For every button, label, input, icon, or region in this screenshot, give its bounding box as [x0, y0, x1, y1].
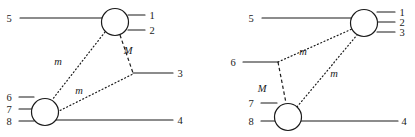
diagram-canvas: 51236784mMm51236784mMm: [0, 0, 415, 137]
right-diagram-leg-8-label: 8: [248, 116, 253, 127]
left-diagram-propagator-m-lower: [57, 74, 133, 112]
right-diagram-leg-6-label: 6: [230, 57, 235, 68]
right-diagram-leg-3-label: 3: [399, 27, 404, 38]
left-diagram-leg-4-label: 4: [177, 115, 183, 126]
left-feynman-diagram: 51236784mMm: [6, 9, 183, 128]
right-diagram-mass-label-M: M: [257, 83, 268, 94]
left-diagram-mass-label-M: M: [123, 45, 134, 56]
left-diagram-leg-1-label: 1: [149, 10, 154, 21]
left-diagram-upper-vertex-blob: [102, 9, 129, 36]
left-diagram-leg-8-label: 8: [6, 116, 11, 127]
right-diagram-leg-4-label: 4: [401, 116, 407, 127]
left-diagram-leg-7-label: 7: [6, 104, 11, 115]
diagram-group: 51236784mMm51236784mMm: [6, 7, 407, 131]
right-diagram-leg-5-label: 5: [248, 13, 253, 24]
left-diagram-lower-vertex-blob: [32, 99, 59, 126]
right-diagram-lower-vertex-blob: [275, 104, 302, 131]
right-feynman-diagram: 51236784mMm: [230, 7, 407, 131]
left-diagram-mass-label-m-lower: m: [75, 85, 83, 96]
left-diagram-leg-6-label: 6: [6, 92, 11, 103]
right-diagram-mass-label-m-upper: m: [299, 46, 307, 57]
right-diagram-propagator-M: [278, 62, 286, 103]
left-diagram-leg-5-label: 5: [6, 13, 11, 24]
left-diagram-leg-3-label: 3: [177, 68, 182, 79]
right-diagram-propagator-m-upper: [278, 29, 352, 62]
left-diagram-mass-label-m-upper: m: [54, 56, 62, 67]
right-diagram-mass-label-m-lower: m: [330, 68, 338, 79]
left-diagram-leg-2-label: 2: [149, 25, 154, 36]
right-diagram-leg-7-label: 7: [248, 98, 253, 109]
right-diagram-right-vertex-blob: [351, 10, 378, 37]
figure-root: 51236784mMm51236784mMm: [0, 0, 415, 137]
